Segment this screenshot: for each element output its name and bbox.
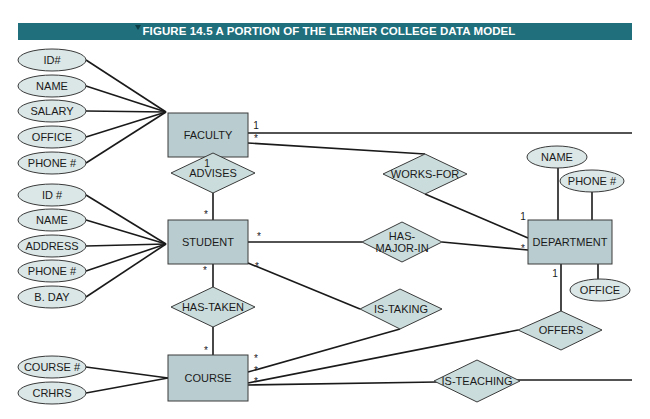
relationship-is-taking[interactable]: IS-TAKING <box>360 289 442 329</box>
attribute-label: PHONE # <box>568 175 617 187</box>
attribute-student-address[interactable]: ADDRESS <box>18 235 86 257</box>
relationship-offers[interactable]: OFFERS <box>518 311 602 350</box>
attribute-label: OFFICE <box>580 284 620 296</box>
cardinality-mark: 1 <box>552 268 558 279</box>
relationship-label: IS-TAKING <box>374 303 428 315</box>
cardinality-mark: * <box>203 265 207 276</box>
relationship-label-line1: HAS- <box>389 230 416 242</box>
relationship-advises[interactable]: ADVISES <box>171 153 255 193</box>
attribute-label: ID # <box>42 189 63 201</box>
attribute-course-number[interactable]: COURSE # <box>18 356 86 378</box>
attribute-label: NAME <box>36 214 68 226</box>
cardinality-mark: 1 <box>204 158 210 169</box>
attribute-faculty-office[interactable]: OFFICE <box>18 126 86 148</box>
attribute-faculty-salary[interactable]: SALARY <box>18 100 86 122</box>
relationship-has-major-in[interactable]: HAS- MAJOR-IN <box>362 222 442 262</box>
attribute-label: PHONE # <box>28 265 77 277</box>
attribute-label: ID# <box>43 54 61 66</box>
attribute-department-office[interactable]: OFFICE <box>570 279 630 301</box>
relationship-label: WORKS-FOR <box>391 168 459 180</box>
attribute-label: COURSE # <box>24 361 81 373</box>
cardinality-mark: * <box>521 243 525 254</box>
attribute-department-phone[interactable]: PHONE # <box>560 170 624 192</box>
attribute-label: NAME <box>541 151 573 163</box>
relationship-is-teaching[interactable]: IS-TEACHING <box>434 360 520 402</box>
er-diagram: FACULTY STUDENT COURSE DEPARTMENT ID# NA… <box>0 0 650 419</box>
attribute-student-id[interactable]: ID # <box>18 184 86 206</box>
attribute-faculty-name[interactable]: NAME <box>18 75 86 97</box>
attribute-label: B. DAY <box>34 291 70 303</box>
entity-department[interactable]: DEPARTMENT <box>528 220 612 264</box>
cardinality-mark: * <box>254 353 258 364</box>
cardinality-mark: * <box>257 231 261 242</box>
attribute-department-name[interactable]: NAME <box>527 146 587 168</box>
attribute-faculty-id[interactable]: ID# <box>18 49 86 71</box>
attribute-student-birthday[interactable]: B. DAY <box>18 286 86 308</box>
relationship-has-taken[interactable]: HAS-TAKEN <box>171 287 255 327</box>
cardinality-mark: * <box>255 261 259 272</box>
relationship-label-line2: MAJOR-IN <box>375 242 428 254</box>
cardinality-mark: 1 <box>253 120 259 131</box>
cardinality-mark: * <box>254 365 258 376</box>
attribute-faculty-phone[interactable]: PHONE # <box>18 152 86 174</box>
attribute-label: CRHRS <box>32 387 71 399</box>
attribute-label: PHONE # <box>28 157 77 169</box>
attribute-label: SALARY <box>30 105 74 117</box>
entity-course-label: COURSE <box>184 372 231 384</box>
cardinality-mark: * <box>254 376 258 387</box>
entity-student[interactable]: STUDENT <box>168 220 248 264</box>
relationship-label: ADVISES <box>189 167 237 179</box>
entity-faculty[interactable]: FACULTY <box>168 113 248 157</box>
cardinality-mark: * <box>254 133 258 144</box>
entity-student-label: STUDENT <box>182 236 234 248</box>
cardinality-mark: 1 <box>520 211 526 222</box>
relationship-works-for[interactable]: WORKS-FOR <box>383 154 467 194</box>
attribute-label: OFFICE <box>32 131 72 143</box>
entity-faculty-label: FACULTY <box>184 129 233 141</box>
relationship-label: OFFERS <box>539 324 584 336</box>
attribute-label: NAME <box>36 80 68 92</box>
entity-department-label: DEPARTMENT <box>533 236 608 248</box>
relationship-label: HAS-TAKEN <box>182 301 244 313</box>
attribute-label: ADDRESS <box>25 240 78 252</box>
relationship-label: IS-TEACHING <box>442 375 513 387</box>
attribute-student-name[interactable]: NAME <box>18 209 86 231</box>
cardinality-mark: * <box>204 345 208 356</box>
attribute-course-crhrs[interactable]: CRHRS <box>18 382 86 404</box>
cardinality-mark: * <box>204 209 208 220</box>
attribute-student-phone[interactable]: PHONE # <box>18 260 86 282</box>
entity-course[interactable]: COURSE <box>168 355 248 401</box>
